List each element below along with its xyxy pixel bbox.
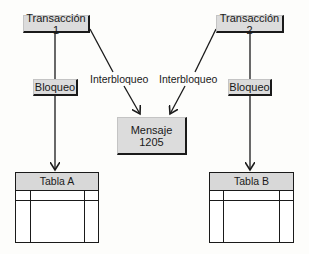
lock-right-box: Bloqueo — [228, 79, 272, 96]
table-a-header: Tabla A — [16, 173, 98, 191]
deadlock-right-label: Interbloqueo — [159, 73, 217, 85]
table-b-column-divider — [279, 190, 280, 242]
lock-right-label: Bloqueo — [229, 81, 269, 93]
table-a-row — [16, 191, 98, 201]
lock-left-label: Bloqueo — [35, 81, 75, 93]
transaction-1-label: Transacción 1 — [24, 12, 88, 36]
transaction-2-box: Transacción 2 — [216, 15, 284, 33]
transaction-2-label: Transacción 2 — [217, 12, 282, 36]
table-a-column-divider — [84, 190, 85, 242]
table-a: Tabla A — [15, 172, 99, 243]
message-line-2: 1205 — [139, 136, 163, 148]
message-line-1: Mensaje — [131, 124, 173, 136]
table-b: Tabla B — [209, 172, 294, 243]
table-b-column-divider — [223, 190, 224, 242]
table-b-header: Tabla B — [210, 173, 293, 191]
deadlock-left-label: Interbloqueo — [90, 73, 148, 85]
message-box: Mensaje 1205 — [117, 117, 187, 155]
table-a-column-divider — [30, 190, 31, 242]
lock-left-box: Bloqueo — [33, 79, 78, 96]
transaction-1-box: Transacción 1 — [23, 15, 90, 33]
